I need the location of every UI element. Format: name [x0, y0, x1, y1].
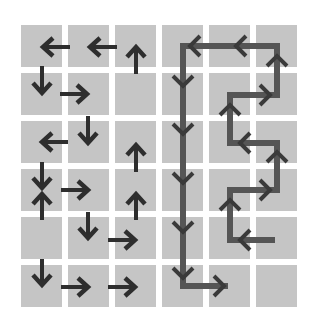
grid-cell	[115, 73, 156, 115]
grid-diagram	[0, 0, 317, 330]
grid-cell	[256, 265, 297, 307]
grid-cell	[21, 217, 62, 259]
grid-canvas	[0, 0, 317, 330]
grid-cells	[21, 25, 297, 307]
